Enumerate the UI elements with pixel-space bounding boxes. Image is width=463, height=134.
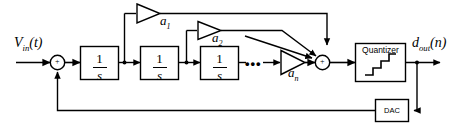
- output-signal-argument: (n): [430, 35, 446, 50]
- gain-an-label: an: [288, 66, 299, 83]
- integrator-1-numerator: 1: [84, 52, 115, 66]
- output-tap-junction-dot: [415, 61, 419, 65]
- integrator-2-denominator: s: [144, 69, 175, 83]
- feedforward-summer-sign: +: [320, 58, 325, 66]
- input-signal-argument: (t): [29, 35, 42, 50]
- input-summer-sign: +: [55, 58, 60, 66]
- quantizer-label: Quantizer: [356, 45, 405, 55]
- block-diagram-figure: Vin(t) + + 1 s 1 s 1 s ••• a1 a2 an Quan…: [0, 0, 463, 134]
- gain-a1-label: a1: [160, 14, 171, 31]
- integrator-1-denominator: s: [84, 69, 115, 83]
- gain-a2-label: a2: [212, 31, 223, 48]
- wire-a1-to-summer: [160, 14, 327, 46]
- gain-an-subscript: n: [295, 74, 299, 83]
- gain-a2-subscript: 2: [219, 39, 223, 48]
- input-signal-label: Vin(t): [14, 36, 43, 52]
- integrator-3-label: 1 s: [204, 52, 235, 82]
- output-signal-label: dout(n): [412, 36, 446, 52]
- dac-label: DAC: [376, 106, 408, 115]
- gain-a1-triangle: [137, 4, 160, 23]
- cascade-ellipsis: •••: [245, 56, 262, 71]
- wire-feedforward-extra-to-summer: [245, 36, 312, 58]
- wire-output-tap-to-dac: [414, 63, 417, 111]
- output-signal-subscript: out: [419, 43, 430, 53]
- input-signal-symbol: V: [14, 35, 23, 50]
- integrator-3-denominator: s: [204, 69, 235, 83]
- a2-tap-junction-dot: [185, 61, 189, 65]
- integrator-2-numerator: 1: [144, 52, 175, 66]
- output-signal-symbol: d: [412, 35, 419, 50]
- integrator-3-numerator: 1: [204, 52, 235, 66]
- integrator-1-label: 1 s: [84, 52, 115, 82]
- a1-tap-junction-dot: [123, 61, 127, 65]
- gain-a1-subscript: 1: [167, 22, 171, 31]
- integrator-2-label: 1 s: [144, 52, 175, 82]
